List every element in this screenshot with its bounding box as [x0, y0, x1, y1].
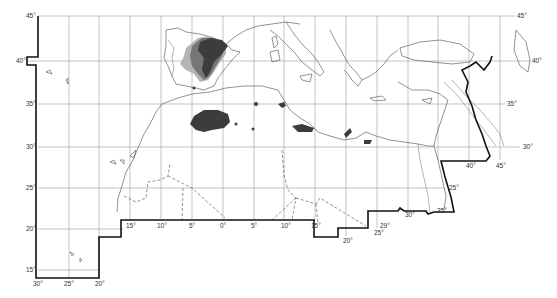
lat-label: 45°	[26, 12, 36, 19]
lat-label: 15°	[26, 266, 36, 273]
lat-label: 25°	[449, 184, 459, 191]
range-dark-libya	[292, 124, 314, 132]
lat-label: 40°	[16, 57, 26, 64]
lon-label: 29°	[380, 222, 390, 229]
lon-label: 0°	[220, 222, 227, 229]
lat-label: 25°	[26, 184, 36, 191]
lon-label: 30°	[33, 280, 43, 287]
lon-label: 20°	[343, 237, 353, 244]
lon-label: 45°	[496, 162, 506, 169]
lat-label: 35°	[507, 100, 517, 107]
range-dark-algeria	[190, 110, 230, 132]
range-dark-tunisia	[278, 102, 286, 108]
lat-label: 40°	[532, 57, 542, 64]
lat-label: 30°	[523, 143, 533, 150]
lon-label: 25°	[64, 280, 74, 287]
lon-label: 15°	[126, 222, 136, 229]
map-canvas: 45° 40° 35° 30° 25° 20° 15° 45° 40° 35° …	[0, 0, 557, 298]
lon-label: 40°	[466, 162, 476, 169]
lon-label: 5°	[189, 222, 196, 229]
lon-label: 5°	[251, 222, 258, 229]
latitude-labels-left: 45° 40° 35° 30° 25° 20° 15°	[16, 12, 36, 273]
graticule	[26, 16, 530, 278]
lon-label: 10°	[157, 222, 167, 229]
lon-label: 10°	[281, 222, 291, 229]
lon-label: 35°	[437, 207, 447, 214]
distribution-map: 45° 40° 35° 30° 25° 20° 15° 45° 40° 35° …	[0, 0, 557, 298]
lon-label: 25°	[374, 229, 384, 236]
lat-label: 35°	[26, 100, 36, 107]
longitude-labels: 15° 10° 5° 0° 5° 10° 15° 30° 25° 20° 20°…	[33, 162, 506, 287]
range-dark-cyrenaica	[344, 128, 352, 138]
lat-label: 20°	[26, 225, 36, 232]
lon-label: 20°	[95, 280, 105, 287]
lat-label: 30°	[26, 143, 36, 150]
lat-label: 45°	[517, 12, 527, 19]
lon-label: 30°	[405, 211, 415, 218]
lon-label: 15°	[311, 222, 321, 229]
distribution-areas	[180, 36, 372, 144]
